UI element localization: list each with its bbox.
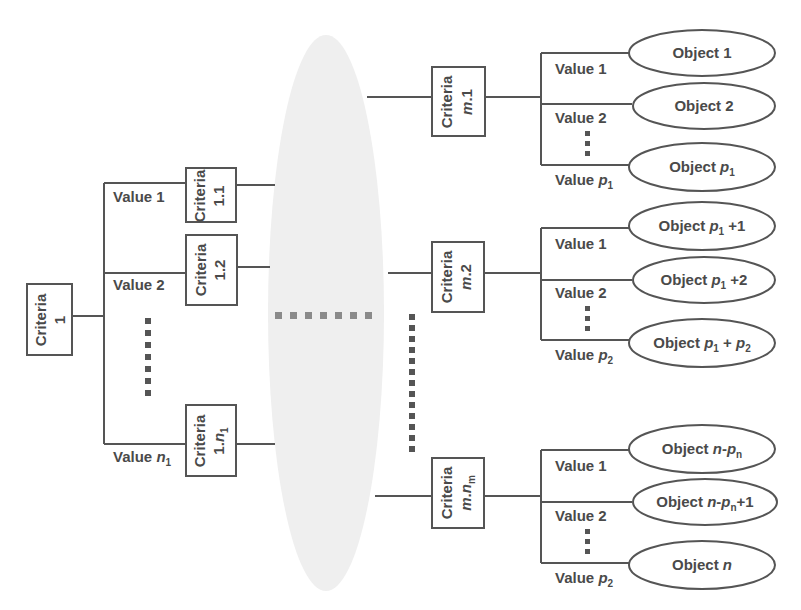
left-value-n1-label: Value n1	[113, 448, 172, 468]
svg-text:Criteria: Criteria	[191, 414, 208, 467]
object-n-minus-pn-node: Object n-pn	[629, 425, 775, 473]
left-value-2-label: Value 2	[113, 276, 165, 293]
svg-text:m.2: m.2	[457, 264, 474, 290]
group-3-value-dots	[585, 529, 590, 554]
group-2-value-1: Value 1	[555, 235, 607, 252]
object-p1-plus-1-node: Object p1 +1	[629, 202, 775, 250]
root-criteria-label: Criteria	[32, 293, 49, 346]
group-1-value-2: Value 2	[555, 109, 607, 126]
left-vertical-ellipsis-dots	[145, 318, 151, 396]
svg-text:m.1: m.1	[458, 89, 475, 115]
criteria-1-n1-node: Criteria 1.n1	[186, 405, 236, 476]
svg-text:Object n: Object n	[672, 556, 732, 573]
group-3-value-1: Value 1	[555, 457, 607, 474]
root-criteria-node: Criteria 1	[27, 284, 72, 355]
criteria-m-1-node: Criteria m.1	[432, 67, 485, 136]
right-vertical-ellipsis-dots	[409, 314, 415, 452]
svg-text:1.2: 1.2	[211, 260, 228, 281]
decision-tree-diagram: Criteria 1 Value 1 Value 2 Value n1 Crit…	[0, 0, 801, 610]
group-2-value-p2: Value p2	[555, 346, 614, 366]
criteria-m-2-node: Criteria m.2	[432, 242, 484, 312]
group-1-value-dots	[585, 131, 590, 156]
group-3-value-2: Value 2	[555, 507, 607, 524]
group-2-value-dots	[585, 306, 590, 331]
object-n-minus-pn-plus-1-node: Object n-pn+1	[633, 479, 777, 525]
root-criteria-index: 1	[51, 316, 68, 324]
svg-text:Object 2: Object 2	[674, 97, 733, 114]
object-p1-plus-p2-node: Object p1 + p2	[629, 319, 775, 367]
svg-text:Criteria: Criteria	[438, 75, 455, 128]
object-2-node: Object 2	[633, 83, 775, 129]
object-p1-node: Object p1	[629, 143, 775, 191]
left-value-1-label: Value 1	[113, 188, 165, 205]
svg-text:Criteria: Criteria	[438, 250, 455, 303]
object-1-node: Object 1	[629, 30, 775, 76]
group-1-value-1: Value 1	[555, 60, 607, 77]
group-1-value-p1: Value p1	[555, 171, 614, 191]
svg-text:Criteria: Criteria	[192, 243, 209, 296]
criteria-1-1-node: Criteria 1.1	[186, 168, 236, 222]
criteria-1-2-node: Criteria 1.2	[186, 235, 237, 305]
object-p1-plus-2-node: Object p1 +2	[633, 257, 775, 303]
criteria-m-nm-node: Criteria m.nm	[432, 458, 484, 528]
group-3-value-p2: Value p2	[555, 569, 614, 589]
svg-text:Criteria: Criteria	[438, 466, 455, 519]
svg-text:Criteria: Criteria	[191, 169, 208, 222]
object-n-node: Object n	[629, 541, 775, 589]
svg-text:1.1: 1.1	[210, 186, 227, 207]
group-2-value-2: Value 2	[555, 284, 607, 301]
svg-text:Object 1: Object 1	[672, 44, 731, 61]
